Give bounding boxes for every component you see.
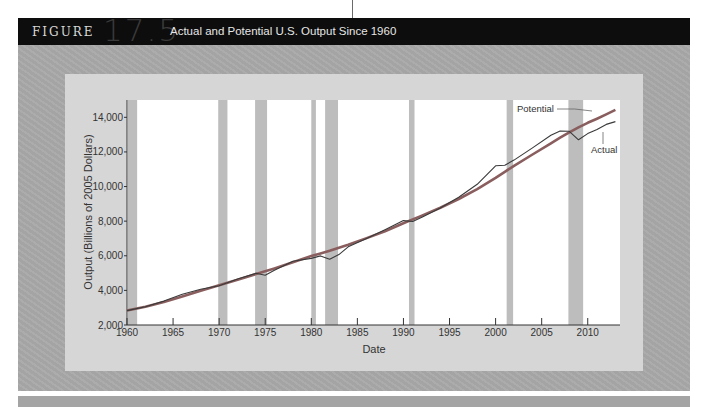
line-chart: 2,0004,0006,0008,00010,00012,00014,000 1… [0,0,708,407]
x-tick-label: 1980 [300,327,323,338]
y-axis: 2,0004,0006,0008,00010,00012,00014,000 [92,100,127,331]
recession-bar [568,100,583,325]
recession-bar [311,100,316,325]
x-tick-label: 1975 [254,327,277,338]
potential-label: Potential [517,103,554,114]
x-axis-title: Date [362,343,385,355]
recession-bar [507,100,513,325]
recession-bar [128,100,137,325]
x-tick-label: 1965 [162,327,185,338]
x-tick-label: 2010 [577,327,600,338]
actual-label: Actual [591,144,617,155]
x-tick-label: 2005 [531,327,554,338]
y-axis-title: Output (Billions of 2005 Dollars) [82,134,94,289]
y-tick-label: 12,000 [92,146,123,157]
recession-bar [409,100,415,325]
y-tick-label: 10,000 [92,181,123,192]
x-tick-label: 1990 [392,327,415,338]
recession-bar [255,100,267,325]
x-tick-label: 1960 [116,327,139,338]
recession-bar [218,100,227,325]
recession-bar [325,100,338,325]
x-tick-label: 1995 [438,327,461,338]
x-tick-label: 1970 [208,327,231,338]
y-tick-label: 8,000 [98,216,123,227]
x-tick-label: 1985 [346,327,369,338]
x-tick-label: 2000 [484,327,507,338]
y-tick-label: 14,000 [92,112,123,123]
y-tick-label: 4,000 [98,285,123,296]
y-tick-label: 6,000 [98,250,123,261]
